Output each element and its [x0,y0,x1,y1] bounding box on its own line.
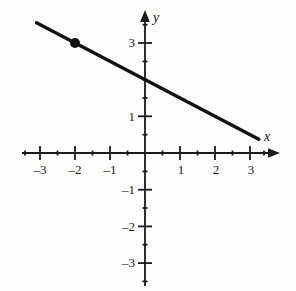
graph-figure: –3 –2 –1 1 2 3 3 1 –1 –2 –3 x y [0,0,296,291]
y-axis-label: y [153,11,159,25]
x-tick-label-1: 1 [167,163,195,176]
x-tick-label-3: 3 [237,163,265,176]
x-axis-label: x [264,130,270,144]
y-tick-label-neg2: –2 [109,220,135,233]
y-tick-label-neg1: –1 [109,183,135,196]
y-tick-label-3: 3 [119,36,135,49]
x-tick-label-neg2: –2 [61,163,89,176]
marked-point [70,38,80,48]
y-tick-label-neg3: –3 [109,256,135,269]
coordinate-plane-svg [0,0,296,291]
y-tick-label-1: 1 [119,110,135,123]
x-axis [22,148,280,158]
x-tick-label-neg3: –3 [26,163,54,176]
x-tick-label-2: 2 [202,163,230,176]
plotted-line [37,23,259,140]
x-tick-label-neg1: –1 [96,163,124,176]
